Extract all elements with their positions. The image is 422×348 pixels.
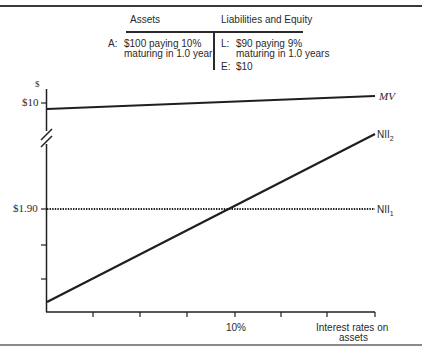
x-axis-label-line-2: assets — [339, 332, 368, 343]
mv-line — [47, 96, 375, 109]
bottom-rule — [0, 344, 422, 346]
x-tick-label-10pct: 10% — [226, 322, 246, 333]
y-tick-label-190: $1.90 — [13, 203, 38, 214]
y-tick-label-10: $10 — [22, 97, 39, 108]
nii2-label-base: NII — [377, 129, 390, 140]
nii1-label-base: NII — [377, 204, 390, 215]
mv-label: MV — [379, 91, 395, 102]
nii1-label-sub: 1 — [390, 210, 394, 217]
nii2-line — [47, 134, 375, 302]
nii2-label-sub: 2 — [390, 135, 394, 142]
chart — [0, 0, 422, 348]
nii1-label: NII1 — [377, 204, 394, 219]
y-axis-dollar-label: $ — [35, 79, 40, 90]
nii2-label: NII2 — [377, 129, 394, 144]
